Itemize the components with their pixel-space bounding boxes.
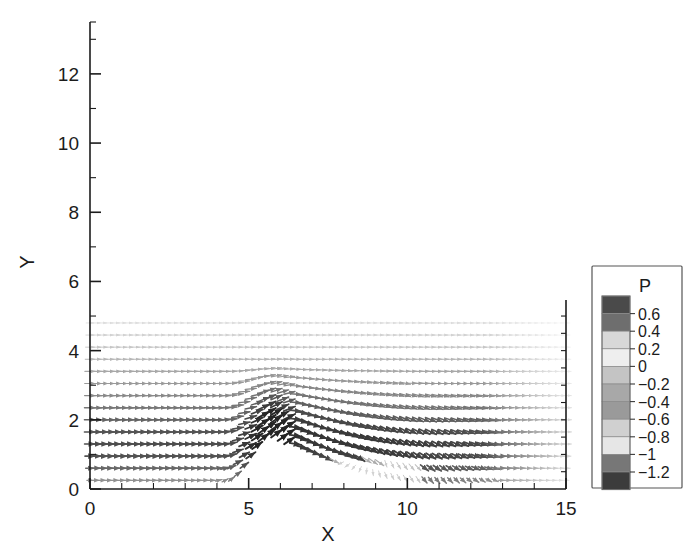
y-tick-label: 8 xyxy=(68,202,79,223)
legend-label: −1 xyxy=(638,446,656,463)
pressure-legend: P 0.60.40.20−0.2−0.4−0.6−0.8−1−1.2 xyxy=(592,266,682,490)
vector-row xyxy=(85,359,571,360)
vector-field-figure: 051015 024681012 X Y P 0.60.40.20−0.2−0.… xyxy=(0,0,699,560)
legend-swatch xyxy=(602,472,630,490)
legend-swatch xyxy=(602,384,630,402)
x-axis-title: X xyxy=(321,523,334,545)
y-tick-label: 0 xyxy=(68,479,79,500)
velocity-vector xyxy=(246,379,257,380)
legend-label: −0.2 xyxy=(638,376,670,393)
legend-swatch xyxy=(602,349,630,367)
y-tick-label: 10 xyxy=(58,133,79,154)
y-tick-label: 12 xyxy=(58,64,79,85)
x-tick-label: 0 xyxy=(85,498,96,519)
x-tick-label: 5 xyxy=(243,498,254,519)
legend-swatch xyxy=(602,454,630,472)
legend-swatch xyxy=(602,366,630,384)
legend-label: −0.8 xyxy=(638,429,670,446)
legend-label: −0.6 xyxy=(638,411,670,428)
legend-title: P xyxy=(639,276,651,296)
legend-swatch xyxy=(602,296,630,314)
legend-swatch xyxy=(602,419,630,437)
velocity-vector xyxy=(290,402,301,403)
legend-label: −1.2 xyxy=(638,464,670,481)
legend-swatch xyxy=(602,402,630,420)
y-tick-label: 6 xyxy=(68,271,79,292)
legend-swatch xyxy=(602,314,630,332)
velocity-vector xyxy=(226,419,237,420)
legend-label: 0.6 xyxy=(638,306,660,323)
velocity-vector xyxy=(239,391,250,392)
legend-label: 0.4 xyxy=(638,323,660,340)
velocity-vector xyxy=(232,405,243,406)
legend-label: 0 xyxy=(638,358,647,375)
y-tick-label: 4 xyxy=(68,341,79,362)
legend-label: 0.2 xyxy=(638,341,660,358)
legend-color-bar xyxy=(602,296,635,490)
y-tick-label: 2 xyxy=(68,410,79,431)
legend-swatch xyxy=(602,331,630,349)
legend-swatch xyxy=(602,437,630,455)
plot-canvas: 051015 024681012 X Y P 0.60.40.20−0.2−0.… xyxy=(0,0,699,560)
legend-label: −0.4 xyxy=(638,394,670,411)
x-tick-label: 10 xyxy=(397,498,418,519)
y-axis-title: Y xyxy=(16,255,38,268)
velocity-vector xyxy=(373,470,374,476)
x-tick-label: 15 xyxy=(555,498,576,519)
